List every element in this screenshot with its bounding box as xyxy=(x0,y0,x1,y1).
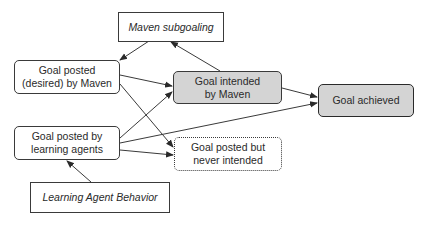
edge-posted-agents-to-intended xyxy=(120,92,172,138)
node-goal-intended-by-maven: Goal intended by Maven xyxy=(173,71,282,104)
edge-intended-to-subgoaling xyxy=(171,42,220,71)
node-maven-subgoaling: Maven subgoaling xyxy=(118,12,224,42)
node-label-line1: Goal posted but xyxy=(191,141,265,154)
node-label: Goal achieved xyxy=(332,94,399,107)
node-label-line1: Goal posted xyxy=(22,64,112,77)
edge-behavior-to-posted-agents xyxy=(67,161,91,182)
node-label-line1: Goal posted by xyxy=(31,130,103,143)
node-label-line2: never intended xyxy=(191,154,265,167)
node-goal-posted-never-intended: Goal posted but never intended xyxy=(174,137,282,171)
node-learning-agent-behavior: Learning Agent Behavior xyxy=(30,182,170,213)
node-goal-posted-by-learning-agents: Goal posted by learning agents xyxy=(14,126,120,160)
node-label-line2: learning agents xyxy=(31,143,103,156)
node-goal-posted-by-maven: Goal posted (desired) by Maven xyxy=(14,60,120,94)
node-label-line1: Goal intended xyxy=(195,75,260,88)
node-label: Learning Agent Behavior xyxy=(42,191,157,204)
edge-subgoaling-to-posted-maven xyxy=(120,41,149,60)
edge-intended-to-achieved xyxy=(282,88,317,97)
node-label-line2: (desired) by Maven xyxy=(22,77,112,90)
node-goal-achieved: Goal achieved xyxy=(318,84,414,117)
edge-posted-maven-to-intended xyxy=(120,75,172,86)
edge-posted-agents-to-never-intended xyxy=(120,150,173,155)
node-label-line2: by Maven xyxy=(195,88,260,101)
node-label: Maven subgoaling xyxy=(128,21,213,34)
